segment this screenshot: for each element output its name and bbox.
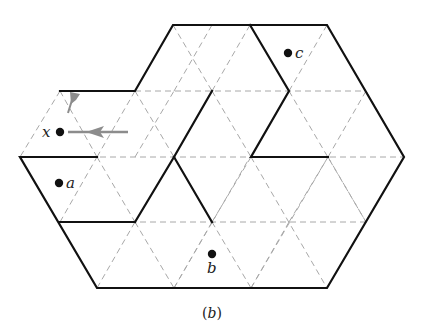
point-b: b bbox=[207, 250, 217, 277]
point-c-label: c bbox=[295, 44, 304, 62]
point-a-label: a bbox=[66, 174, 75, 192]
point-c-dot bbox=[284, 49, 292, 57]
wall-center-right-leg bbox=[174, 157, 212, 222]
point-b-dot bbox=[208, 250, 216, 258]
point-b-label: b bbox=[207, 259, 217, 277]
point-a-dot bbox=[55, 179, 63, 187]
figure-caption: (b) bbox=[202, 305, 222, 321]
point-x-label: x bbox=[42, 123, 51, 141]
motion-arrows bbox=[68, 92, 128, 138]
lattice-diagram: x a b c (b) bbox=[0, 0, 425, 331]
point-x: x bbox=[42, 123, 64, 141]
point-a: a bbox=[55, 174, 75, 192]
caption-letter: b bbox=[207, 305, 216, 321]
point-x-dot bbox=[56, 128, 64, 136]
caption-close-paren: ) bbox=[216, 305, 221, 321]
point-c: c bbox=[284, 44, 304, 62]
